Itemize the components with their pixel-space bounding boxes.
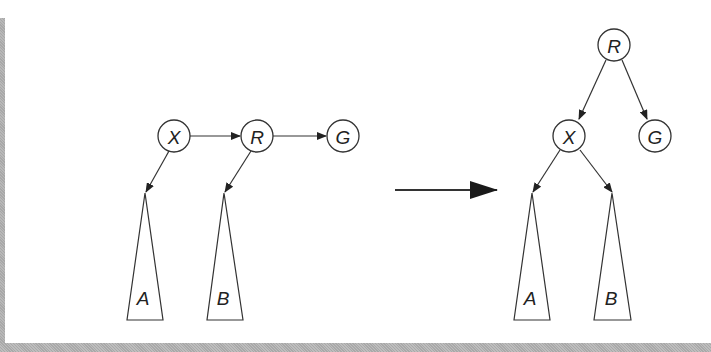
svg-text:R: R — [607, 36, 621, 57]
node-x: X — [158, 120, 190, 152]
subtree-a-label: A — [523, 288, 537, 309]
node-g: G — [639, 120, 671, 152]
tree-rotation-diagram: A B X R G A B R X — [0, 0, 711, 352]
node-r: R — [598, 29, 630, 61]
edge-x-a — [146, 151, 169, 192]
svg-text:X: X — [562, 127, 577, 148]
node-r: R — [241, 120, 273, 152]
subtree-b-label: B — [217, 288, 230, 309]
after-tree: A B R X G — [514, 29, 671, 320]
node-x: X — [553, 120, 585, 152]
subtree-b-label: B — [605, 288, 618, 309]
svg-text:X: X — [167, 127, 182, 148]
edge-x-a — [533, 150, 560, 192]
svg-text:R: R — [250, 127, 264, 148]
svg-text:G: G — [336, 127, 351, 148]
edge-r-g — [622, 60, 647, 119]
subtree-a-label: A — [136, 288, 150, 309]
before-tree: A B X R G — [127, 120, 359, 320]
node-g: G — [327, 120, 359, 152]
edge-r-x — [579, 60, 606, 119]
edge-x-b — [580, 150, 612, 192]
svg-text:G: G — [648, 127, 663, 148]
edge-r-b — [225, 151, 251, 192]
